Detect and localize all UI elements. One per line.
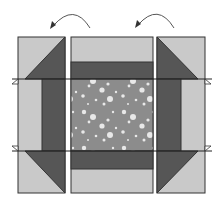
seam-marker-icon (205, 79, 211, 84)
rotate-left-arrow-icon (50, 14, 90, 29)
left-side-unit (18, 37, 65, 193)
seam-marker-icon (12, 79, 18, 84)
seam-marker-icon (205, 146, 211, 151)
rotate-right-arrow-icon (135, 14, 174, 28)
center-print-square (71, 79, 153, 151)
quilt-assembly-diagram (0, 0, 223, 207)
center-unit (71, 37, 153, 193)
right-side-unit (157, 37, 205, 193)
seam-marker-icon (12, 146, 18, 151)
